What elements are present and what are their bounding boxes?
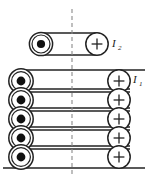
dot-icon [17,153,26,162]
dot-icon [17,77,26,86]
dot-icon [17,134,26,143]
coil-turn-5-right-wire [108,146,130,168]
coil-right-wires [108,70,130,168]
label-lower-current-subscript: 1 [139,80,143,88]
coil-turn-5-left-wire [9,145,33,169]
coil-left-wires [9,69,33,169]
label-upper-current-subscript: 2 [118,44,122,52]
upper-loop-left-wire [29,32,52,55]
physics-figure: I 2 [0,0,148,179]
diagram-canvas: I 2 [0,0,148,179]
dot-icon [17,96,26,105]
dot-icon [37,40,45,48]
upper-loop-right-wire [86,33,108,55]
dot-icon [17,115,26,124]
